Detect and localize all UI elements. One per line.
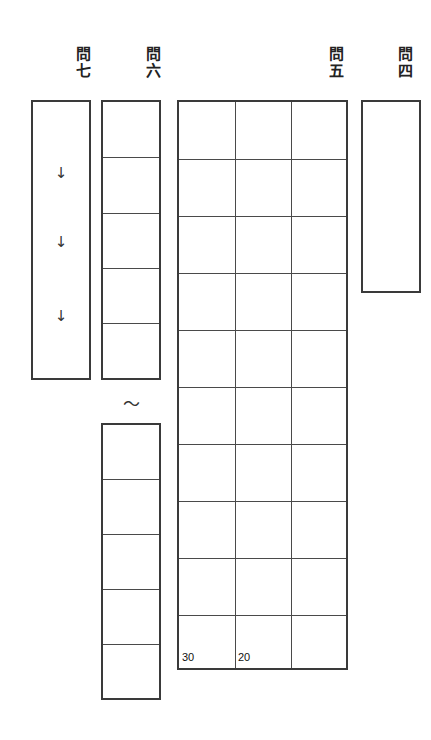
grid-row-divider: [179, 615, 346, 616]
count-marker-30: 30: [182, 652, 194, 663]
answer-box-q4[interactable]: [361, 100, 421, 293]
arrow-down-icon-3: ↓: [51, 309, 71, 324]
grid-row-divider: [103, 644, 159, 645]
grid-col-divider: [291, 102, 292, 668]
section-label-q4: 問 四: [394, 46, 416, 80]
grid-row-divider: [103, 323, 159, 324]
grid-row-divider: [179, 159, 346, 160]
grid-row-divider: [103, 157, 159, 158]
grid-row-divider: [103, 479, 159, 480]
grid-row-divider: [179, 273, 346, 274]
grid-row-divider: [103, 268, 159, 269]
grid-row-divider: [179, 216, 346, 217]
tilde-separator: 〜: [119, 396, 143, 413]
grid-col-divider: [235, 102, 236, 668]
grid-row-divider: [179, 501, 346, 502]
grid-row-divider: [103, 534, 159, 535]
section-label-q6: 問 六: [142, 46, 164, 80]
answer-grid-q6-upper[interactable]: [101, 100, 161, 380]
grid-row-divider: [179, 387, 346, 388]
grid-row-divider: [103, 213, 159, 214]
grid-row-divider: [179, 330, 346, 331]
section-label-q5: 問 五: [325, 46, 347, 80]
grid-row-divider: [179, 444, 346, 445]
grid-row-divider: [179, 558, 346, 559]
answer-grid-q6-lower[interactable]: [101, 423, 161, 700]
arrow-down-icon-1: ↓: [51, 166, 71, 181]
section-label-q7: 問 七: [72, 46, 94, 80]
answer-sheet-page: 問 七 ↓ ↓ ↓ 問 六 〜 問 五 30 20: [0, 0, 431, 740]
arrow-down-icon-2: ↓: [51, 235, 71, 250]
grid-row-divider: [103, 589, 159, 590]
answer-grid-q5[interactable]: [177, 100, 348, 670]
count-marker-20: 20: [238, 652, 250, 663]
